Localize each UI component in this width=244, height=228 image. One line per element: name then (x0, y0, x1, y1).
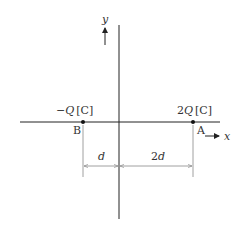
charge-diagram: y x d 2d B A −Q[C] 2Q[C] (0, 0, 244, 228)
charge-label-a: 2Q[C] (177, 104, 212, 117)
y-axis-label: y (101, 13, 109, 26)
dimension-label-2d: 2d (151, 150, 165, 163)
point-a-label: A (196, 124, 206, 137)
point-b-dot (81, 120, 85, 124)
dimension-label-d: d (98, 150, 105, 163)
point-b-label: B (73, 124, 81, 137)
charge-label-b: −Q[C] (56, 104, 93, 117)
x-axis-label: x (224, 130, 231, 143)
point-a-dot (191, 120, 195, 124)
